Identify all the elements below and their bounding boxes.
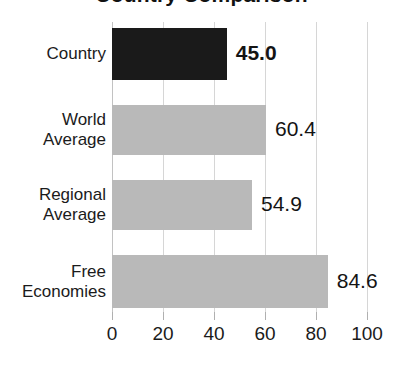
x-tick-80 (316, 312, 317, 320)
plot-area (112, 22, 367, 312)
x-tick-label-80: 80 (305, 324, 326, 344)
category-label-free-economies: FreeEconomies (4, 255, 106, 308)
category-label-line: World (62, 110, 106, 130)
bar-fill (112, 255, 328, 308)
x-tick-60 (265, 312, 266, 320)
bar-chart: Country Comparison CountryWorldAverageRe… (0, 0, 403, 368)
category-label-line: Country (46, 44, 106, 64)
category-label-line: Economies (22, 282, 106, 302)
value-label-regional-average: 54.9 (261, 193, 302, 215)
bar-country[interactable] (112, 28, 227, 80)
x-tick-100 (367, 312, 368, 320)
x-tick-20 (163, 312, 164, 320)
value-label-free-economies: 84.6 (337, 270, 378, 292)
x-tick-label-60: 60 (254, 324, 275, 344)
category-label-regional-average: RegionalAverage (4, 180, 106, 230)
bar-free-economies[interactable] (112, 255, 328, 308)
category-label-line: Free (71, 262, 106, 282)
bar-fill (112, 28, 227, 80)
chart-title: Country Comparison (0, 0, 403, 7)
category-label-world-average: WorldAverage (4, 105, 106, 155)
category-label-country: Country (4, 28, 106, 80)
bar-regional-average[interactable] (112, 180, 252, 230)
value-label-world-average: 60.4 (275, 118, 316, 140)
x-tick-label-100: 100 (351, 324, 383, 344)
x-tick-label-0: 0 (107, 324, 118, 344)
category-label-line: Regional (39, 185, 106, 205)
category-label-line: Average (43, 130, 106, 150)
bar-world-average[interactable] (112, 105, 266, 155)
bar-fill (112, 180, 252, 230)
value-label-country: 45.0 (236, 42, 277, 64)
x-tick-label-20: 20 (152, 324, 173, 344)
x-tick-40 (214, 312, 215, 320)
bar-fill (112, 105, 266, 155)
x-tick-0 (112, 312, 113, 320)
category-label-line: Average (43, 205, 106, 225)
x-tick-label-40: 40 (203, 324, 224, 344)
